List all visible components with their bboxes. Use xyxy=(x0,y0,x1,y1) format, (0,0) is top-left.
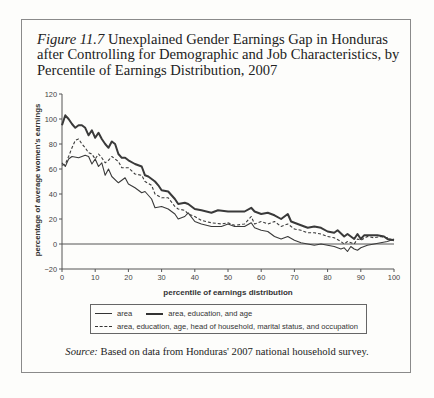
y-tick-label: 60 xyxy=(49,165,57,174)
x-tick-label: 90 xyxy=(357,273,365,282)
y-axis-label: percentage of average women's earnings xyxy=(33,103,42,256)
y-tick-label: −20 xyxy=(44,265,57,274)
source-label: Source: xyxy=(65,346,98,357)
x-axis-label: percentile of earnings distribution xyxy=(163,288,292,297)
y-tick-label: 80 xyxy=(49,140,57,149)
y-tick-label: 40 xyxy=(49,190,57,199)
thick-line-swatch-icon xyxy=(146,313,163,315)
x-tick-label: 30 xyxy=(157,273,165,282)
chart-legend: area area, education, and age area, educ… xyxy=(90,304,367,334)
x-tick-label: 40 xyxy=(191,273,199,282)
legend-item-area: area xyxy=(95,309,132,318)
y-tick-label: 100 xyxy=(45,115,57,124)
y-tick-label: 20 xyxy=(49,215,57,224)
dashed-line-swatch-icon xyxy=(95,326,112,327)
legend-item-area-education-age: area, education, and age xyxy=(146,309,252,318)
line-chart: −200204060801001200102030405060708090100… xyxy=(0,0,434,398)
source-text: Based on data from Honduras' 2007 nation… xyxy=(101,346,369,357)
series-line-dashed xyxy=(62,139,394,244)
legend-item-full-controls: area, education, age, head of household,… xyxy=(95,322,358,331)
x-tick-label: 10 xyxy=(91,273,99,282)
x-tick-label: 100 xyxy=(388,273,400,282)
chart-series xyxy=(62,115,394,251)
x-tick-label: 60 xyxy=(257,273,265,282)
x-tick-label: 50 xyxy=(224,273,232,282)
series-line-thick-solid xyxy=(62,115,394,240)
x-tick-label: 0 xyxy=(60,273,64,282)
y-tick-label: 0 xyxy=(53,240,57,249)
y-tick-label: 120 xyxy=(45,90,57,99)
figure-source: Source: Based on data from Honduras' 200… xyxy=(0,346,434,357)
thin-line-swatch-icon xyxy=(95,313,112,314)
x-tick-label: 20 xyxy=(124,273,132,282)
x-tick-label: 80 xyxy=(323,273,331,282)
x-tick-label: 70 xyxy=(290,273,298,282)
chart-axes: −200204060801001200102030405060708090100 xyxy=(44,90,400,282)
